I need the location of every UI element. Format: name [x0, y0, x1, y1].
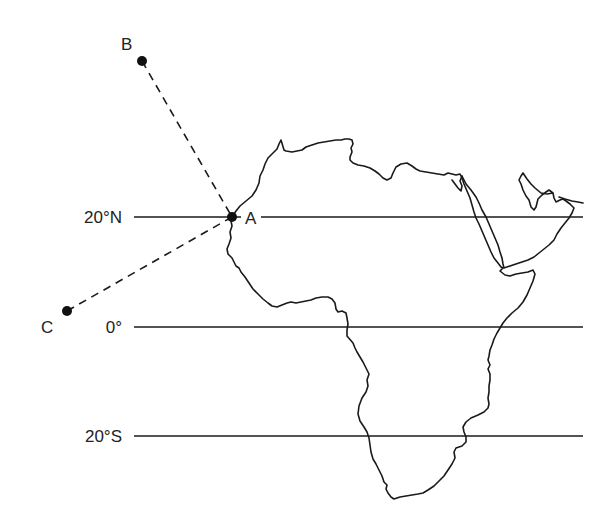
- point-a-marker: [227, 212, 237, 222]
- sinai-inlet: [452, 176, 462, 191]
- dashed-routes: [67, 61, 232, 311]
- map-diagram: 20°N 0° 20°S A B C: [0, 0, 614, 526]
- point-c-marker: [62, 306, 72, 316]
- africa-coastline: [227, 139, 535, 499]
- point-b: B: [121, 35, 147, 66]
- latitude-labels: 20°N 0° 20°S: [84, 208, 122, 446]
- latitude-label-20n: 20°N: [84, 208, 122, 227]
- iran-coast: [559, 197, 583, 203]
- route-b-to-a: [142, 61, 232, 217]
- latitude-lines: [134, 217, 583, 436]
- latitude-label-20s: 20°S: [85, 427, 122, 446]
- point-c-label: C: [41, 318, 53, 337]
- point-c: C: [41, 306, 72, 337]
- africa-outline: [227, 139, 583, 499]
- point-b-marker: [137, 56, 147, 66]
- point-a-label: A: [245, 209, 257, 228]
- latitude-label-equator: 0°: [106, 318, 122, 337]
- point-b-label: B: [121, 35, 132, 54]
- route-c-to-a: [67, 217, 232, 311]
- arabian-peninsula: [462, 173, 574, 268]
